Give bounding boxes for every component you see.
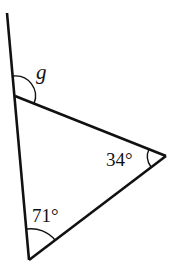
- extension-line: [7, 13, 29, 260]
- triangle-diagram: g 34° 71°: [0, 0, 185, 269]
- label-34: 34°: [106, 149, 133, 170]
- label-g: g: [36, 60, 47, 84]
- side-top-right: [15, 96, 166, 156]
- angle-arc-71: [27, 229, 55, 240]
- angle-arc-34: [147, 149, 151, 167]
- label-71: 71°: [32, 205, 59, 226]
